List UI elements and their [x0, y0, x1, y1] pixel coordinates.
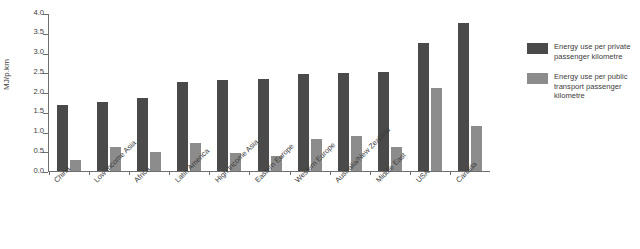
- x-label-cell: Africa: [129, 176, 169, 232]
- x-label-cell: High Income Asia: [210, 176, 250, 232]
- y-tick-label: 0.0: [33, 167, 44, 175]
- bar-private: [217, 80, 228, 171]
- bar-private: [57, 105, 68, 171]
- bar-private: [177, 82, 188, 171]
- x-tick-mark: [370, 171, 371, 175]
- x-tick-mark: [169, 171, 170, 175]
- x-label-cell: Middle East: [371, 176, 411, 232]
- bar-private: [458, 23, 469, 171]
- x-tick-mark: [49, 171, 50, 175]
- legend-swatch: [527, 73, 548, 84]
- x-axis-labels: ChinaLow Income AsiaAfricaLatin AmericaH…: [49, 176, 491, 232]
- legend: Energy use per private passenger kilomet…: [527, 42, 640, 112]
- bar-groups: [49, 14, 490, 171]
- bar-private: [258, 79, 269, 171]
- y-tick-label: 1.0: [33, 127, 44, 135]
- y-tick-label: 0.5: [33, 147, 44, 155]
- x-label-cell: Australia/New Zealand: [330, 176, 370, 232]
- plot-area: 4.03.53.02.52.01.51.00.50.0: [48, 14, 490, 172]
- bar-group: [450, 14, 490, 171]
- y-axis-title: MJ/p.km: [2, 30, 16, 90]
- x-tick-mark: [129, 171, 130, 175]
- x-label-cell: China: [49, 176, 89, 232]
- bar-public: [431, 88, 442, 171]
- x-label-cell: Latin America: [170, 176, 210, 232]
- bar-private: [298, 74, 309, 171]
- bar-public: [150, 152, 161, 171]
- y-tick-label: 2.0: [33, 88, 44, 96]
- x-label-cell: Western Europe: [290, 176, 330, 232]
- bar-group: [49, 14, 89, 171]
- x-tick-mark: [450, 171, 451, 175]
- x-tick-mark: [290, 171, 291, 175]
- bar-private: [378, 72, 389, 171]
- y-tick-label: 4.0: [33, 9, 44, 17]
- figure: MJ/p.km 4.03.53.02.52.01.51.00.50.0 Chin…: [0, 0, 640, 249]
- y-tick-label: 2.5: [33, 68, 44, 76]
- bar-chart: MJ/p.km 4.03.53.02.52.01.51.00.50.0 Chin…: [0, 0, 500, 232]
- x-tick-mark: [330, 171, 331, 175]
- x-tick-mark: [410, 171, 411, 175]
- y-tick-label: 3.5: [33, 28, 44, 36]
- x-label-cell: Canada: [451, 176, 491, 232]
- x-tick-mark: [209, 171, 210, 175]
- legend-label: Energy use per private passenger kilomet…: [554, 42, 640, 61]
- bar-private: [97, 102, 108, 171]
- x-label-cell: Low Income Asia: [89, 176, 129, 232]
- bar-private: [418, 43, 429, 171]
- bar-group: [410, 14, 450, 171]
- y-tick-label: 3.0: [33, 48, 44, 56]
- x-label-cell: USA: [411, 176, 451, 232]
- x-tick-mark: [249, 171, 250, 175]
- legend-label: Energy use per public transport passenge…: [554, 72, 640, 101]
- legend-item: Energy use per public transport passenge…: [527, 72, 640, 101]
- bar-private: [137, 98, 148, 171]
- legend-swatch: [527, 43, 548, 54]
- x-label-cell: Eastern Europe: [250, 176, 290, 232]
- legend-item: Energy use per private passenger kilomet…: [527, 42, 640, 61]
- x-tick-mark: [89, 171, 90, 175]
- bar-private: [338, 73, 349, 171]
- y-tick-label: 1.5: [33, 107, 44, 115]
